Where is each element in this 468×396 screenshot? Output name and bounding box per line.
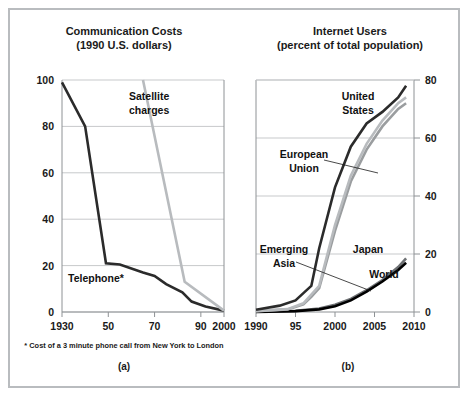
ytick-label-0: 0 [425,306,431,318]
ytick-label-20: 20 [425,248,437,260]
xtick-label-1930: 1930 [50,320,74,332]
series-label-satellite-charges: Satellite [129,90,169,102]
xtick-label-1970: 70 [149,320,161,332]
xtick-label-2010: 2010 [402,320,426,332]
series-label-world: World [369,268,399,280]
panel-b-svg: 020406080199095200020052010UnitedStatesE… [238,10,462,390]
ytick-label-100: 100 [36,74,54,86]
series-label-emerging-asia-line2: Asia [273,257,295,269]
ytick-label-0: 0 [48,306,54,318]
ytick-label-60: 60 [425,132,437,144]
leader-european-union [324,160,378,173]
xtick-label-2000: 2000 [212,320,236,332]
xtick-label-2005: 2005 [363,320,387,332]
series-label-telephone: Telephone* [68,272,125,284]
ytick-label-60: 60 [42,167,54,179]
panel-b-tag: (b) [342,361,355,372]
figure-frame: Communication Costs (1990 U.S. dollars) … [8,8,460,388]
series-label-european-union: European [280,148,328,160]
series-label-united-states: United [342,90,375,102]
panel-a-tag: (a) [118,361,130,372]
series-label-european-union-line2: Union [289,162,319,174]
panel-b-plot: 020406080199095200020052010UnitedStatesE… [238,10,462,390]
series-label-emerging-asia: Emerging [260,243,308,255]
xtick-label-1995: 95 [290,320,302,332]
ytick-label-40: 40 [42,213,54,225]
series-label-united-states-line2: States [342,104,374,116]
leader-emerging-asia [296,262,371,291]
xtick-label-1990: 1990 [244,320,268,332]
panel-a-plot: 02040608010019305070902000Satellitecharg… [10,10,238,390]
ytick-label-20: 20 [42,260,54,272]
ytick-label-40: 40 [425,190,437,202]
xtick-label-1950: 50 [102,320,114,332]
panel-a-svg: 02040608010019305070902000Satellitecharg… [10,10,238,390]
xtick-label-1990: 90 [195,320,207,332]
figure-root: Communication Costs (1990 U.S. dollars) … [0,0,468,396]
xtick-label-2000: 2000 [323,320,347,332]
panel-b-internet-users: Internet Users (percent of total populat… [238,10,462,390]
series-label-japan: Japan [353,243,383,255]
ytick-label-80: 80 [42,120,54,132]
panel-a-communication-costs: Communication Costs (1990 U.S. dollars) … [10,10,238,390]
series-label-satellite-charges-line2: charges [129,104,169,116]
footnote-text: * Cost of a 3 minute phone call from New… [24,341,224,350]
ytick-label-80: 80 [425,74,437,86]
